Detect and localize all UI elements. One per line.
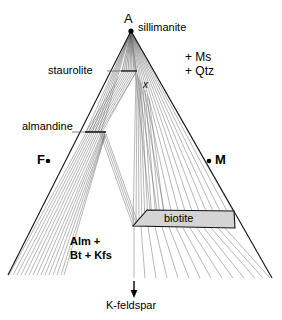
tieline-fan-biotite-kfs	[134, 227, 270, 278]
excess-phase-qtz: + Qtz	[185, 65, 214, 77]
vertex-dot-a	[128, 28, 133, 33]
phase-label-biotite: biotite	[164, 213, 193, 224]
assemblage-label-line1: Alm +	[70, 236, 100, 247]
figure-canvas: A sillimanite staurolite almandine F M +…	[0, 0, 282, 320]
phase-label-sillimanite: sillimanite	[138, 22, 186, 33]
vertex-label-m: M	[215, 153, 226, 166]
vertex-label-f: F	[37, 153, 45, 166]
tieline-fan-staurolite-almandine	[86, 72, 136, 132]
vertex-dot-m	[207, 159, 212, 164]
kfeldspar-arrow-icon	[131, 281, 138, 298]
phase-label-staurolite: staurolite	[48, 65, 93, 76]
assemblage-label-line2: Bt + Kfs	[70, 250, 112, 261]
vertex-dot-f	[46, 159, 51, 164]
apex-label-a: A	[124, 12, 133, 25]
tieline-marker-x: x	[143, 80, 148, 90]
kfeldspar-label: K-feldspar	[106, 300, 156, 311]
excess-phase-ms: + Ms	[185, 51, 211, 63]
phase-label-almandine: almandine	[22, 121, 73, 132]
